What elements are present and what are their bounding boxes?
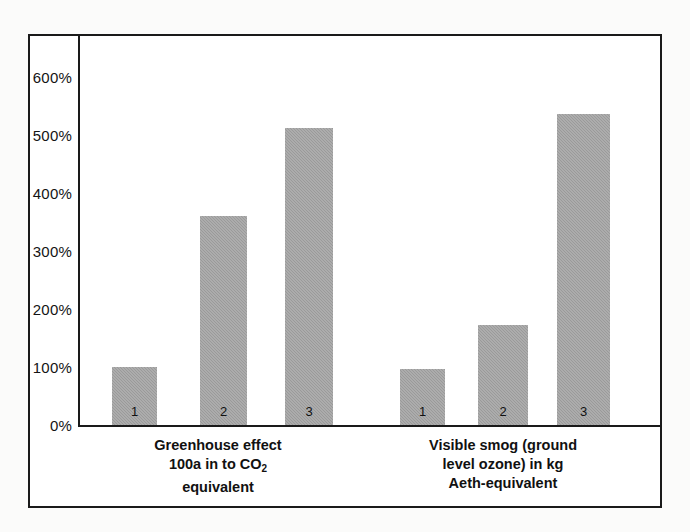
- caption-right-line1: Visible smog (ground: [372, 436, 634, 455]
- bar-group2-item2[interactable]: 2: [478, 325, 528, 425]
- y-tick-600: 600%: [2, 69, 72, 86]
- group-caption-left: Greenhouse effect 100a in to CO2 equival…: [88, 436, 348, 497]
- bar-label-g1-b1: 1: [112, 404, 157, 419]
- caption-left-line2-text: 100a in to CO: [169, 456, 262, 472]
- group-caption-right: Visible smog (ground level ozone) in kg …: [372, 436, 634, 493]
- caption-right-line3: Aeth-equivalent: [372, 474, 634, 493]
- caption-left-line1: Greenhouse effect: [88, 436, 348, 455]
- caption-left-line2: 100a in to CO2: [88, 455, 348, 478]
- y-tick-400: 400%: [2, 185, 72, 202]
- bars-layer: 1 2 3 1 2 3: [80, 36, 662, 425]
- y-tick-0: 0%: [2, 417, 72, 434]
- bar-group1-item3[interactable]: 3: [285, 128, 333, 425]
- y-tick-500: 500%: [2, 127, 72, 144]
- bar-label-g2-b2: 2: [478, 404, 528, 419]
- x-axis-line: [78, 425, 662, 427]
- bar-group1-item1[interactable]: 1: [112, 367, 157, 425]
- y-axis-ticks: 600% 500% 400% 300% 200% 100% 0%: [0, 0, 72, 532]
- caption-left-subscript: 2: [262, 463, 268, 474]
- bar-label-g1-b2: 2: [200, 404, 247, 419]
- y-tick-100: 100%: [2, 359, 72, 376]
- bar-label-g1-b3: 3: [285, 404, 333, 419]
- bar-group1-item2[interactable]: 2: [200, 216, 247, 425]
- y-tick-200: 200%: [2, 301, 72, 318]
- y-tick-300: 300%: [2, 243, 72, 260]
- bar-group2-item1[interactable]: 1: [400, 369, 445, 425]
- bar-label-g2-b3: 3: [557, 404, 610, 419]
- bar-group2-item3[interactable]: 3: [557, 114, 610, 425]
- caption-right-line2: level ozone) in kg: [372, 455, 634, 474]
- bar-label-g2-b1: 1: [400, 404, 445, 419]
- caption-left-line3: equivalent: [88, 478, 348, 497]
